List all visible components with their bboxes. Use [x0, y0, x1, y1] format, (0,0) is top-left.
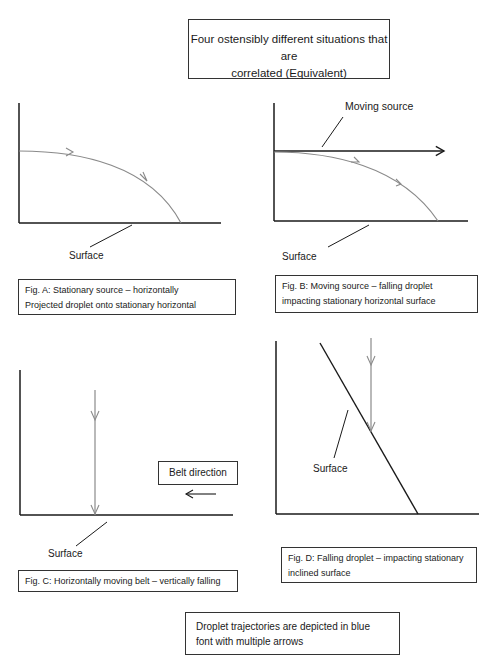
figure-d-axes [276, 341, 479, 514]
title-box: Four ostensibly different situations tha… [188, 19, 390, 79]
title-line-1: Four ostensibly different situations tha… [189, 31, 389, 65]
figure-d-surface-pointer [334, 410, 348, 458]
figure-b-trajectory [274, 152, 438, 221]
figure-a-caption-line-2: Projected droplet onto stationary horizo… [25, 298, 229, 313]
inclined-surface [320, 343, 418, 514]
figure-c-axes [20, 370, 233, 515]
figure-d-trajectory [367, 338, 375, 432]
figure-a-caption-line-1: Fig. A: Stationary source – horizontally [25, 283, 229, 298]
belt-direction-box: Belt direction [158, 461, 238, 485]
figure-b-surface-label: Surface [282, 251, 316, 262]
figure-c-caption-text: Fig. C: Horizontally moving belt – verti… [25, 574, 231, 589]
figure-a-surface-pointer [90, 225, 132, 247]
figure-d-caption-line-2: inclined surface [288, 566, 470, 581]
figure-c-trajectory [91, 390, 99, 515]
figure-b-surface-pointer [328, 225, 369, 247]
figure-b-caption-line-1: Fig. B: Moving source – falling droplet [282, 279, 471, 294]
figure-a-axes [19, 103, 221, 223]
figure-b-caption-line-2: impacting stationary horizontal surface [282, 294, 471, 309]
note-line-1: Droplet trajectories are depicted in blu… [196, 619, 389, 634]
figure-b-source-pointer [322, 117, 343, 147]
figure-b-source-label: Moving source [345, 100, 413, 112]
title-line-2: correlated (Equivalent) [189, 65, 389, 82]
legend-note: Droplet trajectories are depicted in blu… [185, 612, 400, 655]
belt-direction-arrow [186, 490, 216, 498]
figure-c-surface-pointer [76, 522, 107, 546]
belt-direction-label: Belt direction [169, 467, 227, 478]
figure-d-caption: Fig. D: Falling droplet – impacting stat… [281, 547, 477, 583]
figure-d-surface-label: Surface [313, 463, 347, 474]
figure-b-axes [274, 103, 468, 221]
figure-d-caption-line-1: Fig. D: Falling droplet – impacting stat… [288, 551, 470, 566]
figure-c-caption: Fig. C: Horizontally moving belt – verti… [18, 570, 238, 592]
figure-b-caption: Fig. B: Moving source – falling droplet … [275, 275, 478, 313]
figure-a-caption: Fig. A: Stationary source – horizontally… [18, 279, 236, 315]
figure-a-trajectory [19, 148, 181, 223]
note-line-2: font with multiple arrows [196, 634, 389, 649]
figure-c-surface-label: Surface [48, 548, 82, 559]
figure-a-surface-label: Surface [69, 250, 103, 261]
